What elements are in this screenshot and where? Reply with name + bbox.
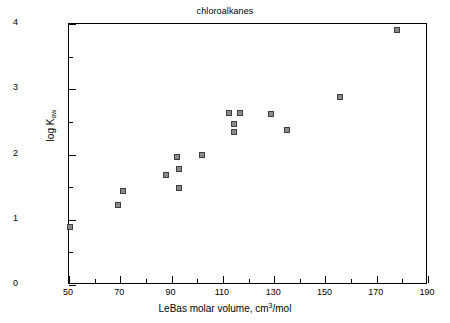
x-axis-tick <box>172 276 173 283</box>
plot-area <box>69 24 426 283</box>
x-axis-tick-label: 70 <box>104 288 134 297</box>
x-axis-tick <box>223 276 224 283</box>
x-axis-tick-minor <box>351 279 352 283</box>
y-axis-tick-minor <box>69 187 73 188</box>
data-point <box>163 172 169 178</box>
y-axis-label: log Kow <box>45 86 56 166</box>
y-axis-tick <box>69 220 76 221</box>
data-point <box>237 110 243 116</box>
y-axis-tick-label: 3 <box>0 83 18 92</box>
data-point <box>284 127 290 133</box>
x-axis-tick-minor <box>300 279 301 283</box>
x-axis-label-suffix: /mol <box>273 303 292 314</box>
y-axis-label-subscript: ow <box>50 110 57 119</box>
x-axis-tick <box>69 276 70 283</box>
y-axis-tick <box>69 155 76 156</box>
plot-frame <box>68 23 427 284</box>
x-axis-tick-label: 110 <box>207 288 237 297</box>
x-axis-tick-label: 130 <box>258 288 288 297</box>
y-axis-tick-minor <box>69 252 73 253</box>
x-axis-tick <box>428 276 429 283</box>
x-axis-tick-label: 50 <box>53 288 83 297</box>
x-axis-tick-minor <box>146 279 147 283</box>
y-axis-label-prefix: log K <box>45 119 56 142</box>
x-axis-tick <box>325 276 326 283</box>
y-axis-tick <box>69 285 76 286</box>
x-axis-tick <box>377 276 378 283</box>
data-point <box>394 27 400 33</box>
x-axis-tick <box>120 276 121 283</box>
x-axis-label-prefix: LeBas molar volume, cm <box>159 303 269 314</box>
x-axis-tick-minor <box>95 279 96 283</box>
data-point <box>67 224 73 230</box>
x-axis-tick-label: 190 <box>412 288 442 297</box>
y-axis-tick-label: 0 <box>0 279 18 288</box>
x-axis-label: LeBas molar volume, cm3/mol <box>0 303 450 314</box>
data-point <box>176 185 182 191</box>
y-axis-tick <box>69 24 76 25</box>
x-axis-tick-minor <box>402 279 403 283</box>
data-point <box>174 154 180 160</box>
y-axis-tick-label: 1 <box>0 214 18 223</box>
y-axis-tick-minor <box>69 122 73 123</box>
chart-figure: chloroalkanes 01234507090110130150170190… <box>0 0 450 323</box>
y-axis-tick <box>69 89 76 90</box>
data-point <box>176 166 182 172</box>
y-axis-tick-label: 2 <box>0 149 18 158</box>
x-axis-tick-label: 170 <box>361 288 391 297</box>
y-axis-tick-label: 4 <box>0 18 18 27</box>
x-axis-tick <box>274 276 275 283</box>
x-axis-tick-minor <box>249 279 250 283</box>
data-point <box>337 94 343 100</box>
data-point <box>120 188 126 194</box>
x-axis-tick-label: 90 <box>156 288 186 297</box>
data-point <box>231 129 237 135</box>
page-title: chloroalkanes <box>0 6 450 16</box>
data-point <box>268 111 274 117</box>
data-point <box>199 152 205 158</box>
x-axis-tick-label: 150 <box>309 288 339 297</box>
data-point <box>115 202 121 208</box>
data-point <box>231 121 237 127</box>
y-axis-tick-minor <box>69 57 73 58</box>
data-point <box>226 110 232 116</box>
x-axis-tick-minor <box>197 279 198 283</box>
